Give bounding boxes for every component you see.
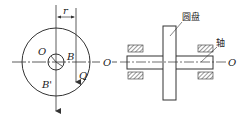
bearing-left-top: [128, 45, 143, 52]
label-r: r: [63, 5, 69, 16]
side-view: 圆盘 轴 O: [120, 11, 236, 100]
label-b-prime: B': [41, 79, 52, 90]
bearing-right-bottom: [198, 72, 213, 79]
label-o-axis-right: O: [228, 57, 236, 68]
label-o-axis-left: O: [103, 57, 111, 68]
front-view: r O B B' Q O: [12, 5, 117, 111]
radius-line-2: [56, 62, 62, 66]
disc: [163, 26, 176, 100]
bearing-left-bottom: [128, 72, 143, 79]
label-disc: 圆盘: [182, 11, 200, 22]
label-q: Q: [79, 70, 87, 81]
mechanics-diagram: r O B B' Q O 圆盘 轴 O: [0, 0, 242, 119]
bearing-right-top: [198, 45, 213, 52]
radius-line: [51, 56, 56, 62]
label-b: B: [66, 51, 74, 62]
label-shaft: 轴: [216, 37, 225, 48]
label-o-center: O: [38, 46, 46, 57]
